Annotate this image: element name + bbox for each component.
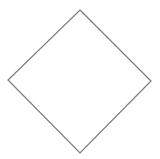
diagram-canvas — [0, 0, 160, 159]
diagram-svg — [0, 0, 160, 159]
diamond-shape — [8, 10, 151, 153]
